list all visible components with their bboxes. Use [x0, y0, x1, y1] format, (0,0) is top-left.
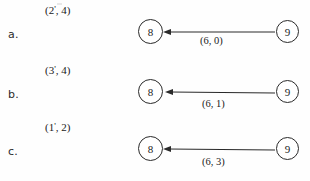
graph-b: 8 9 (6, 1)	[0, 62, 310, 120]
edge-label-a: (6, 0)	[200, 35, 223, 46]
edge-label-c: (6, 3)	[202, 156, 225, 167]
node-8-label-b: 8	[148, 86, 154, 98]
node-9-b: 9	[276, 80, 299, 103]
node-9-c: 9	[276, 137, 299, 160]
graph-c: 8 9 (6, 3)	[0, 119, 310, 177]
figure-row-c: c. (1', 2) 8 9 (6, 3)	[0, 119, 310, 177]
node-9-label-b: 9	[285, 86, 291, 98]
figure-row-b: b. (3', 4) 8 9 (6, 1)	[0, 62, 310, 120]
node-9-label-c: 9	[285, 143, 291, 155]
node-8-b: 8	[138, 79, 163, 104]
node-9-a: 9	[276, 20, 299, 43]
node-9-label-a: 9	[285, 26, 291, 38]
graph-a: 8 9 (6, 0)	[0, 2, 310, 60]
node-8-label-c: 8	[148, 143, 154, 155]
node-8-c: 8	[138, 136, 163, 161]
node-8-a: 8	[138, 19, 163, 44]
figure-row-a: a. (2', 4) 8 9 (6, 0)	[0, 2, 310, 60]
edge-label-b: (6, 1)	[202, 98, 225, 109]
figure-sheet: a. (2', 4) 8 9 (6, 0) b. (3', 4)	[0, 0, 310, 181]
node-8-label-a: 8	[148, 26, 154, 38]
